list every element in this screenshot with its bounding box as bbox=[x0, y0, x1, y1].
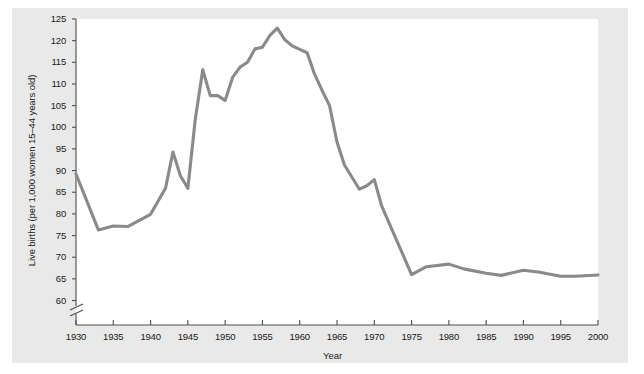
y-tick-label: 60 bbox=[40, 295, 66, 306]
y-tick-label: 80 bbox=[40, 208, 66, 219]
x-tick-label: 1955 bbox=[242, 331, 282, 342]
x-tick-label: 1990 bbox=[503, 331, 543, 342]
x-tick-label: 1960 bbox=[280, 331, 320, 342]
y-tick-label: 120 bbox=[40, 35, 66, 46]
x-tick-label: 1940 bbox=[131, 331, 171, 342]
figure-canvas: 6065707580859095100105110115120125 19301… bbox=[0, 0, 644, 374]
x-tick-marks bbox=[76, 320, 598, 325]
x-tick-label: 2000 bbox=[578, 331, 618, 342]
x-tick-label: 1970 bbox=[354, 331, 394, 342]
x-tick-label: 1985 bbox=[466, 331, 506, 342]
y-tick-label: 85 bbox=[40, 186, 66, 197]
x-tick-label: 1950 bbox=[205, 331, 245, 342]
x-tick-label: 1935 bbox=[93, 331, 133, 342]
data-series-group bbox=[76, 28, 598, 276]
y-tick-label: 125 bbox=[40, 13, 66, 24]
y-axis-title: Live births (per 1,000 women 15–44 years… bbox=[26, 56, 37, 286]
y-tick-label: 95 bbox=[40, 143, 66, 154]
x-tick-label: 1995 bbox=[541, 331, 581, 342]
y-tick-label: 115 bbox=[40, 56, 66, 67]
x-tick-label: 1975 bbox=[392, 331, 432, 342]
x-tick-label: 1930 bbox=[56, 331, 96, 342]
y-tick-marks bbox=[72, 19, 76, 301]
x-tick-label: 1965 bbox=[317, 331, 357, 342]
chart-svg bbox=[0, 0, 644, 374]
y-tick-label: 105 bbox=[40, 100, 66, 111]
x-tick-label: 1980 bbox=[429, 331, 469, 342]
x-axis-title: Year bbox=[323, 350, 342, 361]
y-tick-label: 75 bbox=[40, 230, 66, 241]
axes-group bbox=[70, 19, 598, 325]
y-tick-label: 70 bbox=[40, 251, 66, 262]
y-tick-label: 90 bbox=[40, 165, 66, 176]
y-tick-label: 110 bbox=[40, 78, 66, 89]
x-tick-label: 1945 bbox=[168, 331, 208, 342]
line-series-live-births bbox=[76, 28, 598, 276]
y-tick-label: 65 bbox=[40, 273, 66, 284]
y-tick-label: 100 bbox=[40, 121, 66, 132]
